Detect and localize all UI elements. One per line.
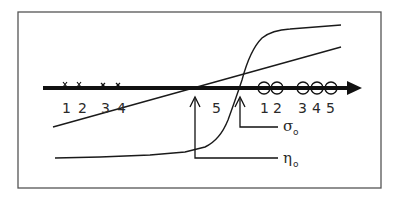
left-label-1: 1 [62, 100, 71, 116]
sigma-pointer [235, 97, 278, 127]
left-label-2: 2 [78, 100, 87, 116]
right-label-3: 3 [298, 100, 307, 116]
eta-label: η [283, 149, 292, 167]
left-label-4: 4 [117, 100, 126, 116]
right-group-markers [258, 82, 337, 94]
right-label-4: 4 [312, 100, 321, 116]
right-label-1: 1 [260, 100, 269, 116]
eta-subscript: o [293, 159, 299, 169]
middle-label-5: 5 [212, 100, 221, 116]
right-label-5: 5 [326, 100, 335, 116]
sigma-subscript: o [293, 127, 299, 137]
sigma-label: σ [283, 117, 293, 135]
left-label-3: 3 [101, 100, 110, 116]
axis-arrowhead-icon [347, 81, 362, 95]
right-label-2: 2 [273, 100, 282, 116]
diagram-canvas: 1 2 3 4 5 1 2 3 4 5 η o σ o [0, 0, 395, 200]
